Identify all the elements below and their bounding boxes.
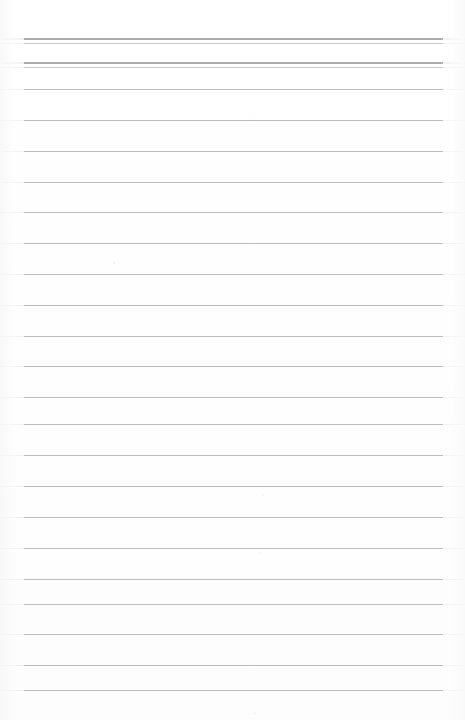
scan-speckle-1	[113, 262, 115, 264]
body-rule-1	[24, 89, 443, 90]
page-left-edge-shading	[0, 0, 14, 720]
body-rule-15	[24, 517, 443, 518]
header-rule-1a	[24, 38, 443, 40]
scan-speckle-3	[259, 552, 261, 554]
body-rule-16	[24, 548, 443, 549]
header-rule-2b	[24, 67, 443, 68]
body-rule-7	[24, 274, 443, 275]
body-rule-21	[24, 690, 443, 691]
scan-speckle-4	[253, 712, 256, 715]
body-rule-11	[24, 397, 443, 398]
body-rule-3	[24, 151, 443, 152]
body-rule-2	[24, 120, 443, 121]
body-rule-5	[24, 212, 443, 213]
header-rule-2a	[24, 62, 443, 64]
body-rule-4	[24, 182, 443, 183]
body-rule-12	[24, 424, 443, 425]
body-rule-19	[24, 634, 443, 635]
body-rule-8	[24, 305, 443, 306]
body-rule-14	[24, 486, 443, 487]
scanned-page	[0, 0, 465, 720]
body-rule-17	[24, 579, 443, 580]
header-rule-1b	[24, 43, 443, 44]
page-right-edge-shading	[451, 0, 465, 720]
paper-background	[0, 0, 465, 720]
body-rule-6	[24, 243, 443, 244]
scan-speckle-2	[262, 494, 264, 496]
body-rule-9	[24, 336, 443, 337]
body-rule-20	[24, 665, 443, 666]
body-rule-18	[24, 604, 443, 605]
body-rule-13	[24, 455, 443, 456]
body-rule-10	[24, 366, 443, 367]
